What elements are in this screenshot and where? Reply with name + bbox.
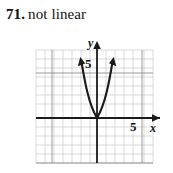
exercise-number: 71. [6, 6, 25, 22]
coordinate-graph: y 5 5 x [0, 30, 173, 173]
grid-major [36, 50, 153, 163]
figure-container: 71.not linear [0, 0, 173, 173]
grid-minor [36, 50, 153, 163]
y-axis-arrowhead [93, 41, 101, 49]
x-tick-label-5: 5 [130, 119, 137, 134]
exercise-caption: 71.not linear [6, 6, 86, 23]
x-axis-label: x [149, 121, 156, 135]
y-axis-label: y [86, 36, 94, 50]
exercise-answer: not linear [25, 6, 86, 22]
y-tick-label-5: 5 [85, 56, 92, 71]
